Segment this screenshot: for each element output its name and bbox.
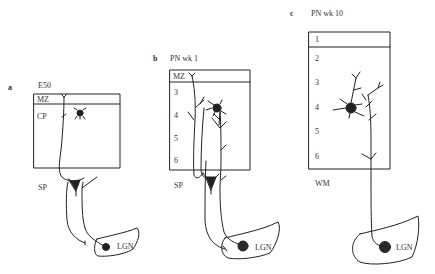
cortex-box-a bbox=[34, 94, 120, 168]
fiber-branch-b bbox=[188, 97, 204, 120]
layer-label-5-c: 5 bbox=[315, 128, 319, 136]
subplate-neuron-a bbox=[70, 180, 80, 191]
lgn-outline-c bbox=[353, 216, 419, 264]
lgn-label-a: LGN bbox=[117, 243, 133, 251]
white-matter-label-c: WM bbox=[315, 180, 330, 188]
diagram-canvas bbox=[0, 0, 435, 274]
cortex-box-c bbox=[309, 32, 390, 169]
panel-letter-b: b bbox=[153, 55, 157, 63]
mz-branch-b bbox=[189, 73, 195, 76]
panel-c bbox=[309, 32, 419, 264]
layer-label-3-b: 3 bbox=[174, 89, 178, 97]
axon-terminal-c bbox=[362, 153, 376, 159]
layer-label-4-b: 4 bbox=[174, 112, 178, 120]
subplate-label-a: SP bbox=[38, 184, 47, 192]
subplate-branch-a bbox=[82, 177, 97, 188]
panel-letter-a: a bbox=[8, 84, 12, 92]
panel-title-a: E50 bbox=[38, 82, 51, 90]
axon-arbor-c bbox=[362, 82, 383, 120]
panel-a bbox=[34, 94, 139, 256]
layer-label-mz-b: MZ bbox=[173, 73, 185, 81]
layer-label-6-b: 6 bbox=[174, 157, 178, 165]
layer4-neuron-c bbox=[346, 103, 356, 113]
subplate-label-b: SP bbox=[174, 182, 183, 190]
panel-b bbox=[170, 70, 279, 259]
panel-title-b: PN wk 1 bbox=[170, 55, 198, 63]
panel-letter-c: c bbox=[290, 10, 294, 18]
layer-label-3-c: 3 bbox=[315, 79, 319, 87]
layer-label-4-c: 4 bbox=[315, 104, 319, 112]
lgn-label-c: LGN bbox=[396, 244, 412, 252]
layer-label-cp-a: CP bbox=[37, 113, 47, 121]
layer-label-5-b: 5 bbox=[174, 135, 178, 143]
cp-neuron-a bbox=[77, 110, 83, 116]
layer-label-mz-a: MZ bbox=[37, 96, 49, 104]
subplate-neuron-b bbox=[206, 177, 216, 190]
subplate-axon-b bbox=[205, 161, 227, 251]
layer-label-6-c: 6 bbox=[315, 153, 319, 161]
layer-label-1-c: 1 bbox=[315, 36, 319, 44]
thalamic-axon-c bbox=[368, 95, 385, 247]
lgn-label-b: LGN bbox=[255, 244, 271, 252]
cortex-box-b bbox=[170, 70, 250, 170]
layer-label-2-c: 2 bbox=[315, 55, 319, 63]
panel-title-c: PN wk 10 bbox=[311, 10, 343, 18]
